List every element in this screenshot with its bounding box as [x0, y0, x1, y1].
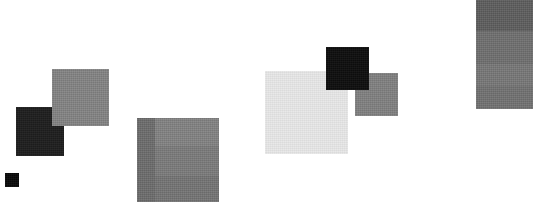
patch-tiny-black-square [5, 173, 19, 187]
band-top-dark [476, 0, 533, 31]
patch-mid-gray-square-left [52, 69, 109, 126]
patch-black-square-center-right [326, 47, 369, 90]
band-bottom [476, 86, 533, 109]
patch-banded-gray-square-center [137, 118, 219, 202]
image-canvas [0, 0, 533, 202]
patch-banded-gray-column-right [476, 0, 533, 109]
band-lower-mid [476, 64, 533, 86]
band-upper-mid [476, 31, 533, 64]
band-left-dark-strip [137, 118, 155, 202]
